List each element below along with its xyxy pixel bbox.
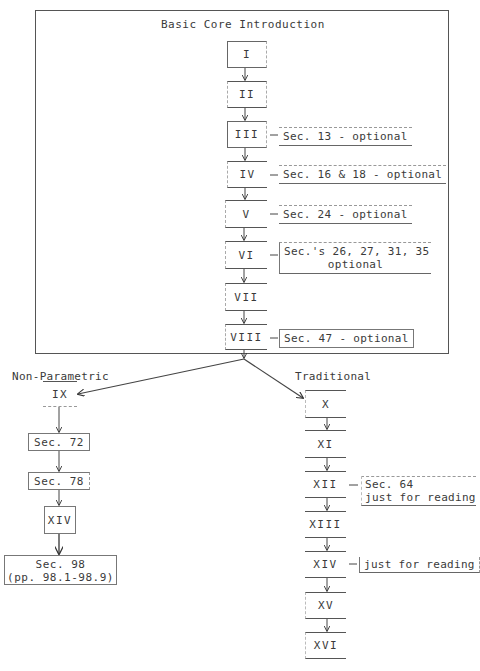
arrow-to-non-parametric [78,359,244,394]
arrow-to-traditional [244,359,303,398]
